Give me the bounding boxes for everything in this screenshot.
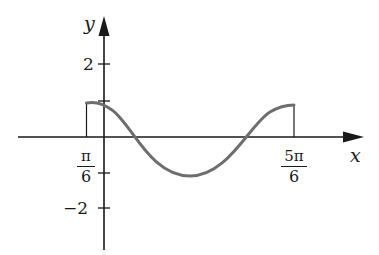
x-tick-label-5pi-over-6: 5π 6 — [281, 149, 307, 185]
y-tick-label-2: 2 — [83, 56, 94, 73]
frac-numerator: 5π — [284, 149, 303, 164]
frac-numerator: π — [81, 149, 91, 164]
y-axis-label: y — [84, 14, 95, 33]
y-axis-arrow-icon — [99, 16, 110, 36]
x-tick-label-pi-over-6: π 6 — [77, 149, 95, 185]
x-axis-arrow-icon — [343, 132, 364, 143]
function-curve — [87, 102, 295, 176]
y-tick-label-neg2: −2 — [63, 200, 88, 217]
frac-denominator: 6 — [81, 169, 91, 185]
frac-denominator: 6 — [289, 169, 299, 185]
x-axis-label: x — [350, 146, 361, 165]
plot-canvas — [0, 0, 379, 255]
